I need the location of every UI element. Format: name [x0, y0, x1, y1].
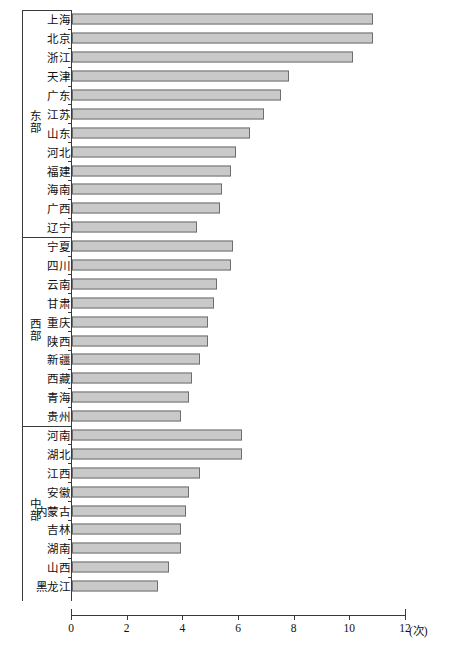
x-axis-tick-label: 10 [344, 622, 356, 634]
category-label: 天津 [47, 68, 70, 84]
bar [72, 203, 220, 214]
bar-row: 新疆 [0, 350, 451, 369]
group-separator [22, 426, 71, 427]
x-axis-tick-label: 4 [179, 622, 185, 634]
category-label: 广西 [47, 200, 70, 216]
category-label: 北京 [47, 30, 70, 46]
bar [72, 411, 181, 422]
category-label: 福建 [47, 163, 70, 179]
category-label: 甘肃 [47, 295, 70, 311]
x-axis-tick [71, 615, 72, 620]
bar-row: 陕西 [0, 331, 451, 350]
bar-row: 黑龙江 [0, 577, 451, 596]
region-group-label-char: 部 [24, 123, 46, 135]
bar [72, 165, 231, 176]
category-label: 陕西 [47, 333, 70, 349]
category-label: 湖南 [47, 540, 70, 556]
region-group-label-char: 中 [24, 499, 46, 511]
bar [72, 71, 289, 82]
bar-row: 四川 [0, 256, 451, 275]
category-label: 黑龙江 [36, 578, 70, 594]
bar-row: 西藏 [0, 369, 451, 388]
bar [72, 146, 236, 157]
category-label: 重庆 [47, 314, 70, 330]
bar-row: 贵州 [0, 407, 451, 426]
bar [72, 524, 181, 535]
bar-row: 内蒙古 [0, 501, 451, 520]
category-label: 上海 [47, 11, 70, 27]
bar-row: 甘肃 [0, 293, 451, 312]
x-axis-tick-label: 8 [291, 622, 297, 634]
bar [72, 505, 186, 516]
category-label: 河北 [47, 144, 70, 160]
bar-row: 青海 [0, 388, 451, 407]
category-label: 江苏 [47, 106, 70, 122]
region-group-label-char: 部 [24, 331, 46, 343]
bar-row: 山西 [0, 558, 451, 577]
category-label: 辽宁 [47, 219, 70, 235]
bar-row: 江苏 [0, 104, 451, 123]
bar-row: 河南 [0, 426, 451, 445]
bar [72, 184, 222, 195]
category-label: 云南 [47, 276, 70, 292]
x-axis-tick [238, 615, 239, 620]
x-axis-tick-label: 0 [68, 622, 74, 634]
bar [72, 486, 189, 497]
category-label: 吉林 [47, 521, 70, 537]
bar-row: 海南 [0, 180, 451, 199]
bar-row: 湖南 [0, 539, 451, 558]
category-label: 四川 [47, 257, 70, 273]
bar-row: 湖北 [0, 444, 451, 463]
bar [72, 392, 189, 403]
bar [72, 335, 208, 346]
bar-row: 山东 [0, 123, 451, 142]
bar-row: 广西 [0, 199, 451, 218]
x-axis-tick-label: 2 [124, 622, 130, 634]
bar [72, 33, 373, 44]
category-label: 广东 [47, 87, 70, 103]
bar-row: 辽宁 [0, 218, 451, 237]
bar [72, 354, 200, 365]
bar-row: 吉林 [0, 520, 451, 539]
bar-row: 天津 [0, 67, 451, 86]
category-label: 山东 [47, 125, 70, 141]
bar-row: 河北 [0, 142, 451, 161]
bar [72, 297, 214, 308]
bar-row: 宁夏 [0, 237, 451, 256]
bar-row: 安徽 [0, 482, 451, 501]
category-label: 西藏 [47, 370, 70, 386]
bar [72, 581, 158, 592]
category-label: 贵州 [47, 408, 70, 424]
region-group-label: 中部 [24, 499, 46, 523]
bar-chart: 上海北京浙江天津广东江苏山东河北福建海南广西辽宁宁夏四川云南甘肃重庆陕西新疆西藏… [0, 0, 451, 654]
bar-row: 江西 [0, 463, 451, 482]
bar-row: 福建 [0, 161, 451, 180]
x-axis-tick [127, 615, 128, 620]
bar-row: 上海 [0, 10, 451, 29]
bar [72, 467, 200, 478]
bar-rows-container: 上海北京浙江天津广东江苏山东河北福建海南广西辽宁宁夏四川云南甘肃重庆陕西新疆西藏… [0, 10, 451, 596]
category-label: 海南 [47, 181, 70, 197]
region-group-label-char: 部 [24, 511, 46, 523]
category-label: 河南 [47, 427, 70, 443]
category-label: 江西 [47, 465, 70, 481]
x-axis-unit-label: (次) [409, 622, 428, 638]
bar-row: 北京 [0, 29, 451, 48]
bar [72, 373, 192, 384]
bar [72, 90, 281, 101]
bar [72, 562, 169, 573]
region-group-label: 东部 [24, 111, 46, 135]
bar [72, 108, 264, 119]
bar-row: 云南 [0, 274, 451, 293]
category-label: 浙江 [47, 49, 70, 65]
x-axis-tick [405, 615, 406, 620]
bar [72, 127, 250, 138]
bar [72, 278, 217, 289]
bar [72, 316, 208, 327]
x-axis-tick [349, 615, 350, 620]
bar [72, 241, 233, 252]
bar-row: 浙江 [0, 48, 451, 67]
category-label: 山西 [47, 559, 70, 575]
bar-row: 广东 [0, 86, 451, 105]
x-axis-tick-label: 6 [235, 622, 241, 634]
